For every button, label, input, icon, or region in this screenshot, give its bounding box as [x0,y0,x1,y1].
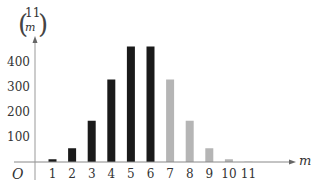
y-tick-labels: 100200300400 [7,55,30,144]
x-tick-label: 6 [147,167,155,181]
bar-m-2 [68,148,76,162]
x-axis-arrow-icon [289,160,296,165]
x-tick-label: 1 [49,167,57,181]
bar-m-4 [107,80,115,163]
x-tick-label: 3 [88,167,96,181]
x-tick-label: 7 [166,167,174,181]
bar-m-8 [186,121,194,162]
bar-m-7 [166,80,174,163]
bars [49,47,253,163]
y-tick-label: 100 [7,130,30,144]
y-axis-arrow-icon [33,36,38,43]
x-tick-label: 8 [186,167,194,181]
y-tick-label: 200 [7,105,30,119]
x-tick-label: 11 [241,167,256,181]
x-axis-label: m [299,153,311,168]
y-label-top: 11 [25,6,40,20]
binomial-coefficient-bar-chart: 100200300400 1234567891011 O m ( ) 11 m [0,0,319,188]
y-tick-label: 300 [7,80,30,94]
origin-label: O [12,166,24,182]
y-axis-label: ( ) 11 m [18,6,48,39]
bar-m-5 [127,47,135,163]
x-tick-label: 9 [205,167,213,181]
y-label-bottom: m [25,21,35,34]
x-tick-label: 4 [107,167,115,181]
x-tick-label: 2 [68,167,76,181]
bar-m-6 [147,47,155,163]
x-tick-label: 5 [127,167,135,181]
bar-m-9 [205,148,213,162]
bar-m-3 [88,121,96,162]
x-tick-labels: 1234567891011 [49,167,256,181]
y-tick-label: 400 [7,55,30,69]
x-tick-label: 10 [221,167,236,181]
